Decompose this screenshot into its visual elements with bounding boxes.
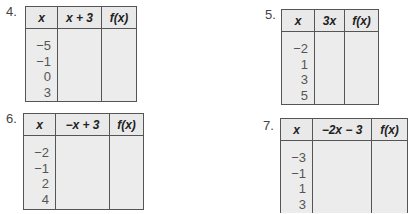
x-value: −3 <box>281 150 306 166</box>
header-expression: −2x − 3 <box>313 119 372 141</box>
fx-answer-cell[interactable] <box>110 136 144 210</box>
x-value: 1 <box>281 181 306 197</box>
header-x: x <box>282 10 315 32</box>
header-fx: f(x) <box>345 10 379 32</box>
expression-answer-cell[interactable] <box>58 29 102 102</box>
x-value: 3 <box>282 72 308 88</box>
problem-number: 7. <box>263 118 274 133</box>
expression-answer-cell[interactable] <box>56 136 110 210</box>
problem-number: 5. <box>265 7 276 22</box>
function-table-7: x −2x − 3 f(x) −3 −1 1 3 <box>280 118 408 213</box>
x-value: −1 <box>24 161 49 177</box>
fx-answer-cell[interactable] <box>102 29 137 102</box>
header-x: x <box>281 119 313 141</box>
x-value: −1 <box>281 166 306 182</box>
x-value: −1 <box>26 54 51 70</box>
function-table-6: x −x + 3 f(x) −2 −1 2 4 <box>23 113 144 210</box>
x-value: 0 <box>26 69 51 85</box>
function-table-5: x 3x f(x) −2 1 3 5 <box>281 9 379 105</box>
x-values-cell: −2 −1 2 4 <box>24 136 56 210</box>
x-values-cell: −2 1 3 5 <box>282 32 315 105</box>
header-fx: f(x) <box>102 7 137 29</box>
x-value: 5 <box>282 88 308 104</box>
header-fx: f(x) <box>372 119 408 141</box>
function-table-4: x x + 3 f(x) −5 −1 0 3 <box>25 6 137 102</box>
header-x: x <box>26 7 58 29</box>
x-values-cell: −3 −1 1 3 <box>281 141 313 214</box>
x-value: −2 <box>282 41 308 57</box>
expression-answer-cell[interactable] <box>313 141 372 214</box>
x-value: 2 <box>24 176 49 192</box>
x-value: 3 <box>281 197 306 213</box>
problem-number: 4. <box>6 4 17 19</box>
x-value: −5 <box>26 38 51 54</box>
header-expression: 3x <box>315 10 345 32</box>
x-value: 4 <box>24 192 49 208</box>
header-x: x <box>24 114 56 136</box>
problem-number: 6. <box>6 111 17 126</box>
x-value: −2 <box>24 145 49 161</box>
x-values-cell: −5 −1 0 3 <box>26 29 58 102</box>
fx-answer-cell[interactable] <box>372 141 408 214</box>
expression-answer-cell[interactable] <box>315 32 345 105</box>
fx-answer-cell[interactable] <box>345 32 379 105</box>
x-value: 1 <box>282 57 308 73</box>
header-expression: x + 3 <box>58 7 102 29</box>
header-fx: f(x) <box>110 114 144 136</box>
x-value: 3 <box>26 85 51 101</box>
header-expression: −x + 3 <box>56 114 110 136</box>
